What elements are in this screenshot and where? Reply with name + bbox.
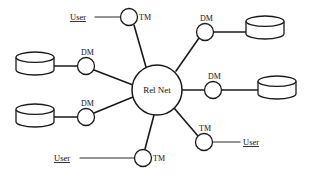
node-circle[interactable] [121, 9, 138, 26]
node-label-dm-right: DM [208, 72, 221, 81]
hub-node[interactable]: Rel Net [132, 65, 182, 115]
node-label-dm-left-lower: DM [81, 99, 94, 108]
cylinder-top [16, 52, 54, 62]
spoke-tm-bottom-right [174, 108, 198, 136]
cylinder-top [258, 76, 296, 86]
node-circle[interactable] [78, 58, 95, 75]
node-label-tm-bottom-left: TM [153, 154, 165, 163]
user-label: User [70, 12, 86, 22]
network-diagram: TMDMDMDMDMTMTM Rel Net UserUserUser [0, 0, 316, 176]
node-dm-left-lower[interactable]: DM [78, 99, 95, 126]
node-label-dm-left-upper: DM [81, 48, 94, 57]
node-dm-right[interactable]: DM [205, 72, 222, 99]
database-cylinder[interactable] [246, 16, 284, 39]
node-circle[interactable] [196, 134, 213, 151]
node-dm-left-upper[interactable]: DM [78, 48, 95, 75]
spoke-tm-bottom-left [145, 115, 154, 149]
node-tm-top-left[interactable]: TM [121, 9, 152, 26]
node-tm-bottom-left[interactable]: TM [135, 150, 166, 167]
node-tm-bottom-right[interactable]: TM [196, 124, 213, 151]
node-label-tm-top-left: TM [139, 13, 151, 22]
node-circle[interactable] [78, 109, 95, 126]
user-label: User [54, 153, 70, 163]
spoke-dm-left-upper [94, 70, 133, 85]
cylinder-top [246, 16, 284, 26]
node-label-tm-bottom-right: TM [199, 124, 211, 133]
hub-label: Rel Net [143, 85, 171, 95]
database-cylinder[interactable] [16, 104, 54, 127]
diagram-canvas: TMDMDMDMDMTMTM Rel Net UserUserUser [0, 0, 316, 176]
spoke-dm-left-lower [94, 97, 133, 113]
node-label-dm-top-right: DM [200, 14, 213, 23]
node-circle[interactable] [205, 82, 222, 99]
database-cylinder[interactable] [258, 76, 296, 99]
node-circle[interactable] [197, 24, 214, 41]
spoke-tm-top-left [134, 25, 146, 67]
user-node-user-bottom-left[interactable]: User [54, 153, 70, 163]
database-cylinder[interactable] [16, 52, 54, 75]
node-circle[interactable] [135, 150, 152, 167]
user-node-user-bottom-right[interactable]: User [243, 137, 259, 147]
user-node-user-top-left[interactable]: User [70, 12, 86, 22]
cylinder-top [16, 104, 54, 114]
spoke-dm-top-right [176, 38, 199, 71]
node-dm-top-right[interactable]: DM [197, 14, 214, 41]
user-label: User [243, 137, 259, 147]
